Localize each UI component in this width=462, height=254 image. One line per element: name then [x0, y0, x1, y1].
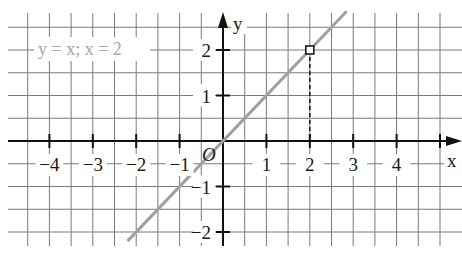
- origin-label: O: [202, 144, 216, 165]
- x-tick-label: 4: [392, 154, 402, 175]
- x-tick-label: 1: [262, 154, 272, 175]
- y-tick-label: −2: [191, 222, 211, 243]
- x-tick-label: 2: [305, 154, 315, 175]
- x-tick-label: −1: [169, 154, 189, 175]
- x-axis-label: x: [447, 150, 457, 171]
- coordinate-plane-chart: −4−3−2−11234−2−112yxO y = x; x = 2: [0, 0, 462, 254]
- x-tick-label: −2: [126, 154, 146, 175]
- series-y-equals-x: [128, 11, 347, 241]
- x-tick-label: 3: [348, 154, 358, 175]
- point-marker: [306, 46, 314, 54]
- y-tick-label: 1: [202, 86, 212, 107]
- plot-area: −4−3−2−11234−2−112yxO y = x; x = 2: [0, 0, 462, 254]
- x-tick-label: −3: [83, 154, 103, 175]
- y-axis-label: y: [233, 13, 243, 34]
- legend: y = x; x = 2: [34, 37, 150, 61]
- legend-label: y = x; x = 2: [38, 39, 122, 59]
- y-tick-label: −1: [191, 177, 211, 198]
- y-tick-label: 2: [202, 40, 212, 61]
- x-tick-label: −4: [39, 154, 60, 175]
